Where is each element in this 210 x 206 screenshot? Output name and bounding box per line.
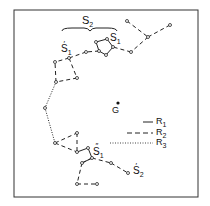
label-s1-double-prime: S1″ (93, 147, 106, 159)
label-g: G (112, 106, 119, 115)
legend-label-r3: R3 (156, 138, 166, 149)
label-s2-prime: S2′ (133, 166, 145, 178)
dotted-edges (45, 82, 56, 143)
network-diagram (0, 0, 210, 206)
label-s2-brace: S2 (82, 15, 93, 28)
s2-brace (62, 28, 117, 31)
label-s1: S1 (110, 33, 121, 45)
solid-edges (77, 39, 113, 163)
label-s1-prime: S1′ (61, 44, 73, 56)
